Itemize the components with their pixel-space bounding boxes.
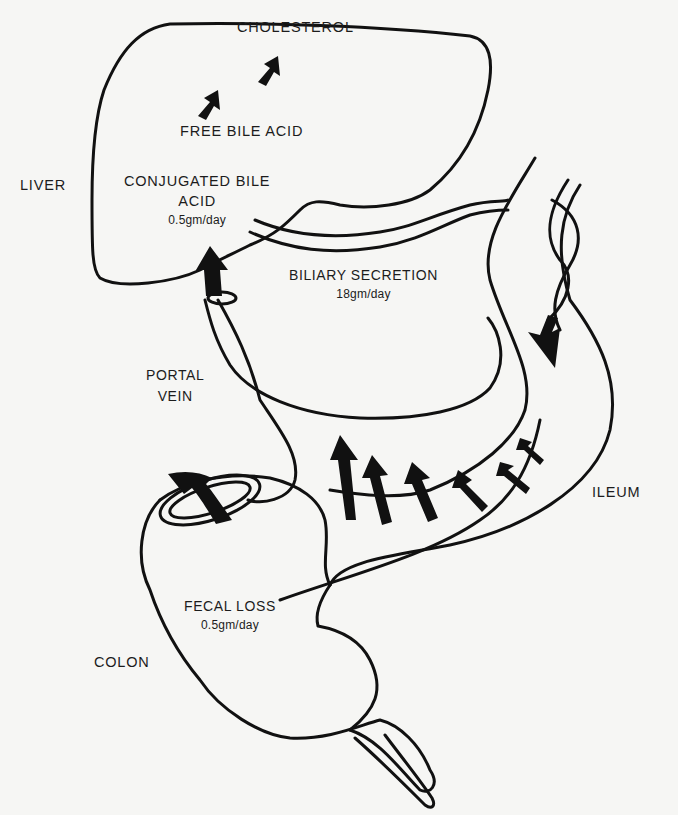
arrow-reabsorb-3 — [404, 462, 438, 522]
appendix — [355, 735, 434, 807]
arrow-reabsorb-6 — [516, 438, 544, 465]
label-conjugated-line1: CONJUGATED BILE — [124, 174, 270, 189]
arrow-reabsorb-1 — [330, 435, 358, 520]
colon-outline — [141, 500, 434, 791]
label-conjugated-rate: 0.5gm/day — [124, 213, 270, 228]
label-portal-vein: PORTAL VEIN — [146, 368, 204, 404]
arrow-free-to-conjugated — [198, 90, 220, 120]
anatomy-drawing — [0, 0, 678, 815]
label-liver: LIVER — [20, 178, 66, 193]
label-biliary-rate: 18gm/day — [289, 287, 438, 302]
arrow-reabsorb-4 — [452, 470, 488, 512]
arrow-ileal-descent — [528, 315, 560, 368]
label-biliary-text: BILIARY SECRETION — [289, 268, 438, 283]
intestine-inner — [330, 158, 535, 496]
label-colon: COLON — [94, 655, 150, 670]
intestine-curve — [205, 300, 501, 418]
label-fecal-text: FECAL LOSS — [184, 599, 276, 614]
label-vein: VEIN — [146, 389, 204, 404]
label-free-bile-acid: FREE BILE ACID — [180, 124, 303, 139]
label-conjugated-bile-acid: CONJUGATED BILE ACID 0.5gm/day — [124, 174, 270, 228]
label-conjugated-line2: ACID — [124, 194, 270, 209]
bile-acid-circulation-diagram: CHOLESTEROL FREE BILE ACID CONJUGATED BI… — [0, 0, 678, 815]
label-fecal-loss: FECAL LOSS 0.5gm/day — [184, 599, 276, 633]
arrow-cholesterol-to-free-bile — [258, 56, 280, 86]
label-biliary-secretion: BILIARY SECRETION 18gm/day — [289, 268, 438, 302]
label-fecal-rate: 0.5gm/day — [184, 618, 276, 633]
label-cholesterol: CHOLESTEROL — [237, 20, 354, 35]
arrow-reabsorb-2 — [362, 455, 392, 525]
label-portal: PORTAL — [146, 368, 204, 383]
label-ileum: ILEUM — [592, 485, 640, 500]
